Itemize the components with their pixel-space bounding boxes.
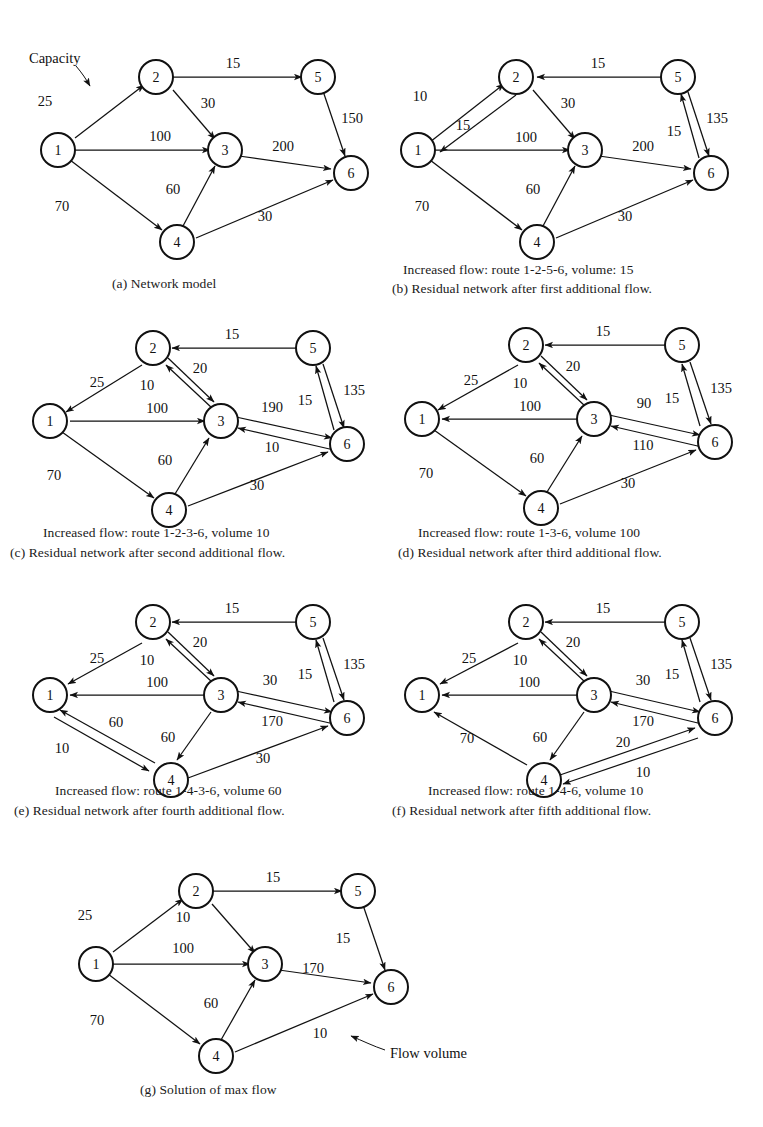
node-1[interactable]: 1 <box>33 678 67 712</box>
node-2-label: 2 <box>153 70 160 85</box>
panel-d-caption: (d) Residual network after third additio… <box>398 545 662 561</box>
node-2[interactable]: 2 <box>136 605 170 639</box>
edge-6-3 <box>238 428 334 450</box>
node-1[interactable]: 1 <box>405 678 439 712</box>
panel-e-graph: 25 15 10 20 100 15 135 30 170 60 10 60 3… <box>14 600 374 790</box>
edge-label-3-2: 10 <box>513 375 528 391</box>
node-5[interactable]: 5 <box>665 328 699 362</box>
edge-label-6-3: 110 <box>632 437 653 453</box>
node-3[interactable]: 3 <box>577 402 611 436</box>
node-5-label: 5 <box>315 70 322 85</box>
edge-label-6-5: 15 <box>298 392 313 408</box>
edge-label-2-1: 25 <box>90 650 105 666</box>
edge-label-6-5: 15 <box>665 666 680 682</box>
edge-label-2-3: 20 <box>566 358 581 374</box>
node-6[interactable]: 6 <box>330 427 364 461</box>
capacity-annotation: Capacity <box>29 50 81 66</box>
node-5[interactable]: 5 <box>296 331 330 365</box>
edge-label-4-3: 60 <box>204 995 219 1011</box>
panel-e-caption: (e) Residual network after fourth additi… <box>14 803 285 819</box>
edge-3-6 <box>609 415 700 435</box>
edge-label-1-4: 70 <box>415 198 430 214</box>
node-1[interactable]: 1 <box>33 404 67 438</box>
edge-label-2-3: 20 <box>193 360 208 376</box>
node-5[interactable]: 5 <box>301 60 335 94</box>
edge-6-5 <box>316 366 334 430</box>
panel-f-subcaption: Increased flow: route 1-4-6, volume 10 <box>428 783 643 799</box>
node-3[interactable]: 3 <box>577 678 611 712</box>
node-5-label: 5 <box>355 884 362 899</box>
node-6[interactable]: 6 <box>374 970 408 1004</box>
flow-volume-annotation: Flow volume <box>390 1045 467 1061</box>
edge-label-4-6: 20 <box>616 734 631 750</box>
node-5-label: 5 <box>310 341 317 356</box>
node-3[interactable]: 3 <box>204 678 238 712</box>
edge-label-1-3: 100 <box>515 129 537 145</box>
node-3[interactable]: 3 <box>204 404 238 438</box>
edge-label-4-3: 60 <box>158 452 173 468</box>
node-4-label: 4 <box>166 503 173 518</box>
node-2[interactable]: 2 <box>139 60 173 94</box>
edge-label-3-6: 170 <box>302 960 324 976</box>
node-6[interactable]: 6 <box>334 156 368 190</box>
panel-f-caption: (f) Residual network after fifth additio… <box>392 803 651 819</box>
edge-label-3-2: 10 <box>140 652 155 668</box>
edge-label-4-6: 30 <box>618 208 633 224</box>
node-4[interactable]: 4 <box>199 1039 233 1073</box>
node-1[interactable]: 1 <box>401 133 435 167</box>
panel-c-caption: (c) Residual network after second additi… <box>10 545 285 561</box>
node-2[interactable]: 2 <box>179 874 213 908</box>
edge-6-3 <box>611 702 702 724</box>
node-2[interactable]: 2 <box>509 605 543 639</box>
node-4[interactable]: 4 <box>160 225 194 259</box>
node-4-label: 4 <box>174 235 181 250</box>
node-6[interactable]: 6 <box>694 156 728 190</box>
edge-1-2 <box>75 85 144 138</box>
node-6-label: 6 <box>712 711 719 726</box>
edge-2-1 <box>440 643 518 684</box>
node-6[interactable]: 6 <box>698 701 732 735</box>
node-1[interactable]: 1 <box>405 402 439 436</box>
edge-label-5-6: 15 <box>336 930 351 946</box>
node-4[interactable]: 4 <box>152 493 186 527</box>
node-1-label: 1 <box>419 688 426 703</box>
edge-label-2-5: 15 <box>226 55 241 71</box>
node-3[interactable]: 3 <box>568 133 602 167</box>
node-5[interactable]: 5 <box>661 60 695 94</box>
node-1[interactable]: 1 <box>41 133 75 167</box>
edge-3-6 <box>599 156 691 169</box>
node-4[interactable]: 4 <box>524 491 558 525</box>
node-3[interactable]: 3 <box>248 947 282 981</box>
edge-label-6-4: 10 <box>636 764 651 780</box>
node-6[interactable]: 6 <box>698 425 732 459</box>
node-4-label: 4 <box>213 1049 220 1064</box>
node-1[interactable]: 1 <box>79 947 113 981</box>
edge-4-6 <box>235 994 373 1052</box>
node-3-label: 3 <box>218 414 225 429</box>
panel-a-graph: Capacity 25 15 30 100 150 200 70 60 30 1… <box>20 46 380 261</box>
panel-c-subcaption: Increased flow: route 1-2-3-6, volume 10 <box>43 525 270 541</box>
edge-label-1-2: 25 <box>78 907 93 923</box>
edge-label-6-5: 15 <box>665 390 680 406</box>
edge-5-6 <box>363 905 385 970</box>
edge-label-2-5: 15 <box>266 869 281 885</box>
node-5[interactable]: 5 <box>341 874 375 908</box>
edge-3-6 <box>279 970 371 983</box>
panel-e-network: 25 15 10 20 100 15 135 30 170 60 10 60 3… <box>14 600 374 790</box>
edge-3-6 <box>609 691 700 712</box>
node-5-label: 5 <box>310 615 317 630</box>
node-3[interactable]: 3 <box>208 133 242 167</box>
edge-2-1 <box>68 643 142 684</box>
edge-label-2-1: 25 <box>90 374 105 390</box>
panel-c-network: 25 15 10 20 100 15 135 190 10 70 60 30 1… <box>14 320 374 520</box>
node-4[interactable]: 4 <box>520 225 554 259</box>
node-5[interactable]: 5 <box>296 605 330 639</box>
edge-1-4 <box>70 160 162 230</box>
node-6[interactable]: 6 <box>330 701 364 735</box>
node-2[interactable]: 2 <box>499 60 533 94</box>
node-2[interactable]: 2 <box>136 331 170 365</box>
node-2[interactable]: 2 <box>509 328 543 362</box>
node-5-label: 5 <box>679 615 686 630</box>
node-5[interactable]: 5 <box>665 605 699 639</box>
panel-f-graph: 25 15 10 20 100 15 135 30 170 70 60 20 1… <box>390 600 750 790</box>
